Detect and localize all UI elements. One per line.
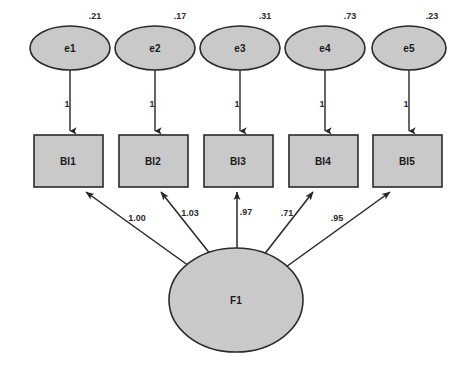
error-variance-e2: .17 (174, 11, 187, 21)
error-label-e3: e3 (234, 43, 246, 54)
indicator-label-bi3: BI3 (230, 156, 246, 167)
error-path-label-e1: 1 (64, 99, 69, 109)
loading-path-f1-bi1 (86, 192, 196, 271)
factor-label-f1: F1 (230, 295, 242, 306)
sem-path-diagram: e1 e2 e3 e4 e5 .21 .17 .31 .73 .23 1 1 1… (0, 0, 467, 370)
error-nodes-group: e1 e2 e3 e4 e5 (30, 26, 446, 70)
indicator-label-bi2: BI2 (145, 156, 161, 167)
error-label-e4: e4 (319, 43, 331, 54)
error-variance-group: .21 .17 .31 .73 .23 (89, 11, 439, 21)
loading-label-bi2: 1.03 (181, 208, 199, 218)
error-label-e2: e2 (149, 43, 161, 54)
error-path-label-e5: 1 (403, 99, 408, 109)
indicator-label-bi5: BI5 (399, 156, 415, 167)
loading-path-f1-bi4 (263, 192, 313, 256)
diagram-canvas: e1 e2 e3 e4 e5 .21 .17 .31 .73 .23 1 1 1… (0, 0, 467, 370)
error-variance-e4: .73 (344, 11, 357, 21)
error-label-e5: e5 (403, 43, 415, 54)
indicator-label-bi4: BI4 (315, 156, 331, 167)
loading-path-f1-bi2 (161, 192, 211, 255)
loading-label-bi5: .95 (331, 213, 344, 223)
error-variance-e1: .21 (89, 11, 102, 21)
error-label-e1: e1 (64, 43, 76, 54)
loading-label-group: 1.00 1.03 .97 .71 .95 (128, 207, 343, 223)
loading-label-bi3: .97 (240, 207, 253, 217)
error-path-label-e3: 1 (234, 99, 239, 109)
indicator-nodes-group: BI1 BI2 BI3 BI4 BI5 (34, 135, 442, 187)
error-path-label-e4: 1 (319, 99, 324, 109)
loading-label-bi4: .71 (281, 208, 294, 218)
indicator-label-bi1: BI1 (60, 156, 76, 167)
loading-label-bi1: 1.00 (128, 213, 146, 223)
error-path-label-group: 1 1 1 1 1 (64, 99, 408, 109)
factor-node-group: F1 (169, 248, 303, 352)
error-path-label-e2: 1 (149, 99, 154, 109)
error-variance-e5: .23 (426, 11, 439, 21)
error-variance-e3: .31 (259, 11, 272, 21)
loading-path-f1-bi5 (279, 192, 390, 272)
